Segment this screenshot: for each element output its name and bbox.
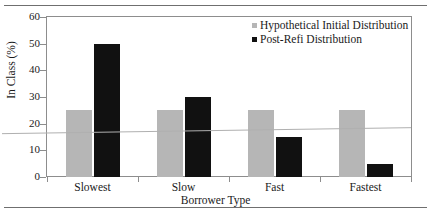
y-tick-label: 40 xyxy=(0,64,40,75)
y-tick-label: 60 xyxy=(0,11,40,22)
x-axis-title: Borrower Type xyxy=(0,194,431,206)
y-tick xyxy=(40,124,46,125)
legend-label: Hypothetical Initial Distribution xyxy=(260,19,408,33)
y-tick-label: 0 xyxy=(0,171,40,182)
x-tick-label: Slowest xyxy=(43,181,143,194)
y-tick-label: 20 xyxy=(0,118,40,129)
y-axis: In Class (%) xyxy=(0,0,46,217)
legend-item: Hypothetical Initial Distribution xyxy=(252,19,408,33)
y-tick xyxy=(40,44,46,45)
x-tick-label: Fastest xyxy=(316,181,416,194)
y-tick xyxy=(40,97,46,98)
y-tick xyxy=(40,177,46,178)
chart-legend: Hypothetical Initial DistributionPost-Re… xyxy=(252,19,408,46)
y-tick xyxy=(40,70,46,71)
y-tick-label: 50 xyxy=(0,38,40,49)
legend-swatch-icon xyxy=(252,23,257,28)
y-tick xyxy=(40,17,46,18)
y-tick xyxy=(40,150,46,151)
x-tick xyxy=(47,177,48,182)
y-tick-label: 10 xyxy=(0,144,40,155)
legend-swatch-icon xyxy=(252,37,257,42)
legend-item: Post-Refi Distribution xyxy=(252,33,408,47)
bottom-rule xyxy=(4,207,427,208)
top-rule xyxy=(4,5,427,6)
figure-container: In Class (%) 0102030405060 SlowestSlowFa… xyxy=(0,0,431,217)
legend-label: Post-Refi Distribution xyxy=(260,33,362,47)
x-tick-label: Fast xyxy=(225,181,325,194)
x-tick-label: Slow xyxy=(134,181,234,194)
y-tick-label: 30 xyxy=(0,91,40,102)
